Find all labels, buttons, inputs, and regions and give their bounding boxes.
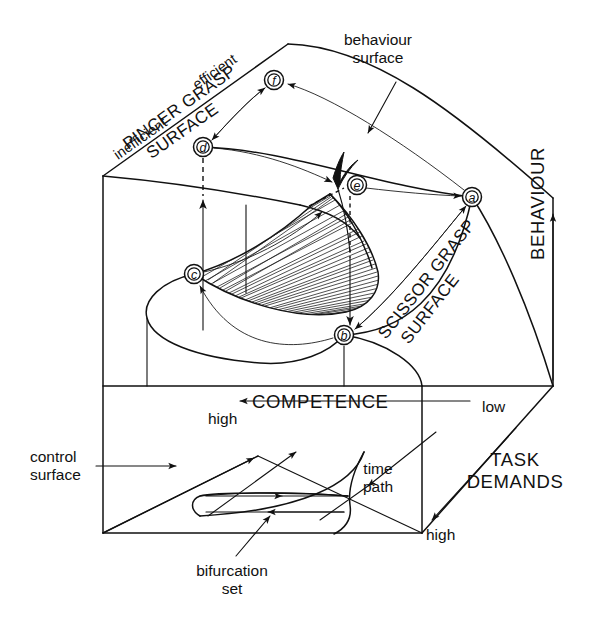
behaviour-surface-label-line1: behaviour [344, 31, 412, 48]
behaviour-surface [103, 44, 553, 386]
node-f[interactable]: f [265, 71, 284, 90]
behaviour-axis-label: BEHAVIOUR [527, 147, 548, 260]
time-path-label-line2: path [363, 478, 393, 495]
node-e-label: e [354, 179, 361, 193]
node-e[interactable]: e [348, 176, 367, 195]
node-a-label: a [469, 191, 476, 205]
task-demands-high-label: high [426, 526, 455, 543]
competence-high-label: high [208, 410, 237, 427]
bifurcation-set-label-line1: bifurcation [196, 562, 268, 579]
node-c-label: c [191, 268, 198, 282]
bifurcation-set-label-line2: set [222, 580, 243, 597]
competence-axis-label: COMPETENCE [252, 391, 389, 412]
time-path-label-line1: time [363, 460, 392, 477]
figure-canvas: a b c d e [0, 0, 606, 619]
behaviour-surface-label-line2: surface [353, 49, 404, 66]
node-c[interactable]: c [185, 265, 204, 284]
competence-low-label: low [482, 398, 506, 415]
cusp-catastrophe-diagram: a b c d e [0, 0, 606, 619]
control-surface-label-line1: control [30, 448, 77, 465]
task-demands-label-line2: DEMANDS [467, 471, 564, 492]
node-a[interactable]: a [463, 188, 482, 207]
node-d[interactable]: d [194, 138, 213, 157]
node-b[interactable]: b [335, 326, 354, 345]
node-d-label: d [200, 141, 208, 155]
node-b-label: b [341, 329, 348, 343]
fold-hatching [196, 196, 379, 318]
task-demands-label-line1: TASK [490, 449, 539, 470]
control-surface-label-line2: surface [30, 466, 81, 483]
